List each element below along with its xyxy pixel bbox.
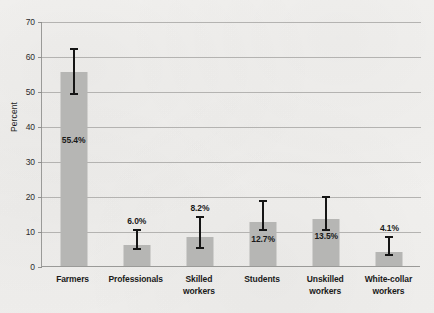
x-axis-category-label: Unskilledworkers bbox=[294, 274, 357, 297]
error-bar-cap-top bbox=[196, 216, 204, 218]
bar-slot: 12.7% bbox=[232, 21, 295, 266]
x-axis-category-label: Skilledworkers bbox=[167, 274, 230, 297]
bar[interactable] bbox=[60, 72, 87, 266]
y-axis-tick-label: 10 bbox=[26, 227, 35, 237]
bar-slot: 8.2% bbox=[168, 21, 231, 266]
error-bar-cap-top bbox=[133, 229, 141, 231]
error-bar-cap-top bbox=[259, 200, 267, 202]
error-bar-cap-top bbox=[322, 196, 330, 198]
error-bar-cap-bottom bbox=[133, 248, 141, 250]
x-axis-category-line: Skilled bbox=[167, 274, 230, 286]
x-axis-category-line: Unskilled bbox=[294, 274, 357, 286]
error-bar-cap-bottom bbox=[70, 93, 78, 95]
bar-slot: 55.4% bbox=[42, 21, 105, 266]
error-bar bbox=[136, 229, 138, 250]
error-bar bbox=[262, 200, 264, 232]
bar-slot: 13.5% bbox=[295, 21, 358, 266]
error-bar-cap-bottom bbox=[259, 229, 267, 231]
bar-value-label: 13.5% bbox=[314, 231, 338, 241]
error-bar-cap-top bbox=[70, 48, 78, 50]
chart-page: Percent 010203040506070 55.4%6.0%8.2%12.… bbox=[0, 0, 434, 313]
x-axis-category-label: Farmers bbox=[41, 274, 104, 286]
error-bar bbox=[199, 216, 201, 249]
bar-value-label: 55.4% bbox=[62, 135, 86, 145]
bar-value-label: 8.2% bbox=[190, 203, 209, 213]
y-axis-tick-label: 70 bbox=[26, 17, 35, 27]
y-axis-tick bbox=[38, 267, 42, 268]
x-axis-category-line: workers bbox=[167, 286, 230, 298]
y-axis-tick-label: 20 bbox=[26, 192, 35, 202]
plot-area: 010203040506070 55.4%6.0%8.2%12.7%13.5%4… bbox=[41, 22, 420, 267]
y-axis-tick-label: 50 bbox=[26, 87, 35, 97]
y-axis-title: Percent bbox=[9, 102, 19, 132]
bar-value-label: 4.1% bbox=[380, 223, 399, 233]
error-bar bbox=[325, 196, 327, 231]
bar-value-label: 12.7% bbox=[251, 234, 275, 244]
error-bar bbox=[73, 48, 75, 95]
x-axis-category-line: Farmers bbox=[41, 274, 104, 286]
x-axis-category-line: White-collar bbox=[357, 274, 420, 286]
x-axis-category-label: White-collarworkers bbox=[357, 274, 420, 297]
x-axis-category-line: workers bbox=[357, 286, 420, 298]
bar-slot: 4.1% bbox=[358, 21, 421, 266]
y-axis-tick-label: 30 bbox=[26, 157, 35, 167]
bar-value-label: 6.0% bbox=[127, 216, 146, 226]
error-bar-cap-top bbox=[385, 236, 393, 238]
x-axis-category-line: Professionals bbox=[104, 274, 167, 286]
bar-slot: 6.0% bbox=[105, 21, 168, 266]
y-axis-tick-label: 60 bbox=[26, 52, 35, 62]
y-axis-tick-label: 40 bbox=[26, 122, 35, 132]
x-axis-category-label: Professionals bbox=[104, 274, 167, 286]
x-axis-category-line: workers bbox=[294, 286, 357, 298]
x-axis-category-line: Students bbox=[231, 274, 294, 286]
error-bar-cap-bottom bbox=[385, 254, 393, 256]
error-bar-cap-bottom bbox=[196, 247, 204, 249]
y-axis-tick-label: 0 bbox=[30, 262, 35, 272]
x-axis-category-label: Students bbox=[231, 274, 294, 286]
error-bar bbox=[388, 236, 390, 255]
